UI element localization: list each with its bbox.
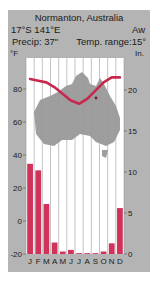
- station-marker: [95, 97, 98, 100]
- month-label: S: [93, 257, 98, 266]
- month-label: J: [77, 257, 81, 266]
- left-axis-tick-label: 40: [13, 151, 22, 160]
- precip-bar: [109, 243, 115, 254]
- left-axis-tick-label: 80: [13, 85, 22, 94]
- right-axis-tick-label: 10: [128, 168, 137, 177]
- left-axis-tick-label: -20: [10, 250, 22, 259]
- climograph: 806040200-2020151050JFMAMJJASOND: [0, 0, 160, 289]
- month-label: D: [117, 257, 123, 266]
- month-label: M: [43, 257, 50, 266]
- precip-bar: [68, 250, 74, 254]
- precip-bar: [117, 208, 123, 254]
- right-axis-tick-label: 20: [128, 86, 137, 95]
- precip-bar: [60, 252, 66, 254]
- precip-bar: [76, 253, 82, 254]
- month-label: O: [100, 257, 106, 266]
- month-label: J: [28, 257, 32, 266]
- precip-bar: [35, 170, 41, 254]
- precip-bar: [52, 243, 58, 254]
- left-axis-tick-label: 60: [13, 118, 22, 127]
- month-label: A: [85, 257, 91, 266]
- right-axis-tick-label: 15: [128, 127, 137, 136]
- month-label: N: [109, 257, 115, 266]
- month-label: J: [69, 257, 73, 266]
- month-label: A: [52, 257, 58, 266]
- month-label: F: [36, 257, 41, 266]
- precip-bar: [93, 253, 99, 254]
- month-label: M: [59, 257, 66, 266]
- precip-bar: [44, 204, 50, 254]
- precip-bar: [84, 253, 90, 254]
- left-axis-tick-label: 0: [18, 217, 23, 226]
- precip-bar: [101, 252, 107, 254]
- precip-bar: [27, 164, 33, 254]
- right-axis-tick-label: 0: [128, 250, 133, 259]
- right-axis-tick-label: 5: [128, 209, 133, 218]
- left-axis-tick-label: 20: [13, 184, 22, 193]
